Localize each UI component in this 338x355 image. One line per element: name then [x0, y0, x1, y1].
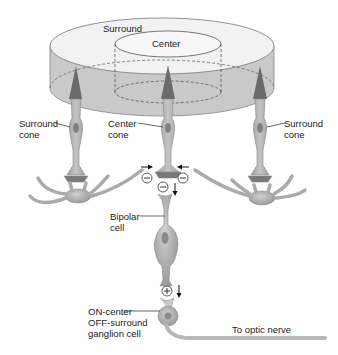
arrow-down-icon [173, 183, 178, 196]
horizontal-cell-left [30, 170, 142, 203]
surround-cone-right [248, 99, 272, 182]
label-surround: Surround [103, 23, 142, 34]
excitatory-synapse [162, 285, 182, 298]
arrow-left-icon [177, 165, 189, 170]
label-optic-nerve: To optic nerve [232, 324, 291, 335]
label-surround-cone-left: Surround cone [19, 118, 58, 140]
label-center: Center [152, 38, 181, 49]
bipolar-cell [154, 194, 178, 286]
surround-cone-left [64, 99, 88, 182]
label-surround-cone-right: Surround cone [284, 118, 323, 140]
label-ganglion-cell: ON-center OFF-surround ganglion cell [88, 306, 148, 339]
receptive-field-diagram [0, 0, 338, 355]
label-center-cone: Center cone [108, 118, 137, 140]
receptive-field-disk [50, 18, 274, 116]
arrow-down-icon [177, 285, 182, 298]
horizontal-cell-right [195, 170, 305, 205]
label-bipolar-cell: Bipolar cell [110, 211, 140, 233]
